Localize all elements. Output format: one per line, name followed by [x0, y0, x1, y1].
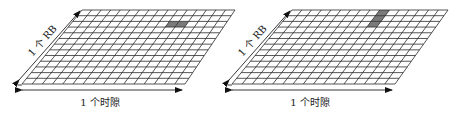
- grid-lines: [232, 10, 448, 84]
- slot-label: 1 个时隙: [80, 96, 120, 108]
- resource-grid-figure: 1 个时隙1 个 RB 1 个时隙1 个 RB: [0, 0, 471, 114]
- grid-lines: [22, 10, 235, 84]
- diagram-canvas: 1 个时隙1 个 RB 1 个时隙1 个 RB: [0, 0, 471, 114]
- resource-grid-right: 1 个时隙1 个 RB: [228, 10, 448, 108]
- resource-grid-left: 1 个时隙1 个 RB: [18, 10, 235, 108]
- rb-arrow: [19, 11, 80, 80]
- rb-arrow: [229, 11, 290, 80]
- slot-label: 1 个时隙: [290, 96, 330, 108]
